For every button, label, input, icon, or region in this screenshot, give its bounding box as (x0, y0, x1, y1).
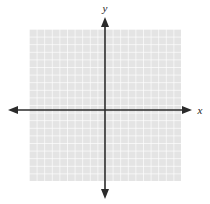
x-axis-label: x (197, 104, 203, 116)
y-axis-label: y (102, 2, 108, 14)
coordinate-plane-svg: x y (0, 0, 210, 204)
coordinate-plane-figure: x y (0, 0, 210, 204)
